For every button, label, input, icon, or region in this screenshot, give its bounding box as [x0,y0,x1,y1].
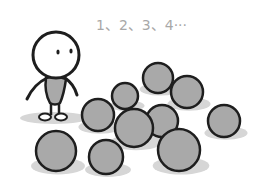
figure-head [33,32,79,78]
ball [36,131,76,171]
ball [89,140,123,174]
counting-caption: 1、2、3、4··· [96,14,187,34]
stick-figure [20,32,88,124]
left-foot [39,114,51,121]
right-eye [69,48,72,53]
left-arm [27,78,47,99]
left-eye [56,49,59,54]
ball [82,99,114,131]
ball [112,83,138,109]
figure-body [46,77,67,105]
figure-shadow [20,112,88,124]
counting-illustration: 1、2、3、4··· [0,0,276,188]
ball [158,129,200,171]
right-foot [55,114,67,121]
ball [171,76,203,108]
ball [143,63,173,93]
ball [115,109,153,147]
ball [208,105,240,137]
